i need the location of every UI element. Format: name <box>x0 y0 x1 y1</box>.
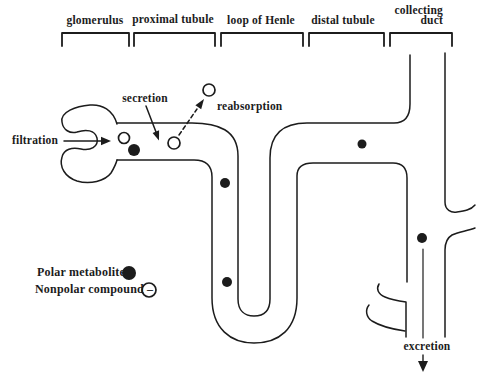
glomerulus-bracket <box>62 33 129 46</box>
glomerulus-outline <box>61 105 117 183</box>
polar-metabolite-in-descending-proximal <box>220 178 230 188</box>
region-brackets <box>62 33 452 46</box>
polar-metabolite-in-loop-of-henle <box>222 277 232 287</box>
collecting-duct-bracket <box>390 33 452 46</box>
nephron-drug-excretion-diagram: glomerulus proximal tubule loop of Henle… <box>0 0 484 382</box>
polar-metabolite-in-collecting-duct <box>417 233 427 243</box>
nonpolar-compound-in-tubule <box>168 137 180 149</box>
reabsorption-arrow-shaft <box>179 109 197 135</box>
proximal-tubule-label: proximal tubule <box>132 14 214 24</box>
glomerulus-label: glomerulus <box>67 15 124 25</box>
loop-of-henle-label: loop of Henle <box>227 15 295 25</box>
polar-metabolite-in-proximal-tubule <box>128 144 140 156</box>
polar-metabolite-markers <box>122 140 427 288</box>
proximal-tubule-bracket <box>134 33 215 46</box>
collecting-duct-left-branch-lower <box>367 305 405 331</box>
nonpolar-compound-reabsorbed <box>203 84 215 96</box>
reabsorption-arrowhead <box>195 99 204 109</box>
loop-of-henle-bracket <box>221 33 303 46</box>
secretion-label: secretion <box>122 93 168 103</box>
excretion-label: excretion <box>404 341 451 351</box>
reabsorption-label: reabsorption <box>217 101 282 111</box>
nonpolar-compound-filtered <box>119 133 130 144</box>
secretion-arrowhead <box>153 130 160 140</box>
legend-polar-metabolite-label: Polar metabolite = <box>37 267 135 277</box>
filtration-label: filtration <box>12 135 58 145</box>
nephron-diagram-canvas <box>0 0 484 382</box>
filtration-arrowhead <box>101 137 111 145</box>
tubule-wall-outer <box>117 160 407 343</box>
legend-nonpolar-compound-label: Nonpolar compound – <box>35 284 153 294</box>
collecting-duct-label-line2: duct <box>394 16 443 26</box>
secretion-arrow-shaft <box>146 106 156 132</box>
collecting-duct-right-branch <box>445 228 475 337</box>
collecting-duct-label: collecting duct <box>394 6 443 25</box>
distal-tubule-label: distal tubule <box>311 15 375 25</box>
polar-metabolite-in-distal-tubule <box>358 140 367 149</box>
excretion-arrowhead <box>418 361 428 372</box>
distal-tubule-bracket <box>309 33 384 46</box>
collecting-duct-right-wall-upper <box>445 53 475 212</box>
